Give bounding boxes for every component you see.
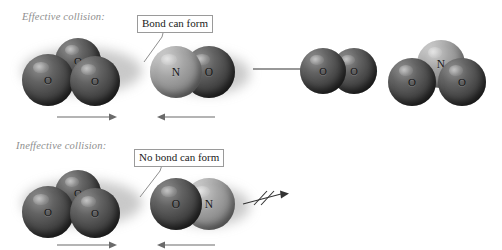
atom-label-o: O <box>44 206 52 218</box>
row-heading-ineffective: Ineffective collision: <box>16 140 106 151</box>
atom-oxygen-lower-left: O <box>22 54 74 106</box>
molecule-no-top: N O <box>150 44 246 104</box>
atom-label-o: O <box>408 76 416 88</box>
atom-label-o: O <box>319 66 327 77</box>
motion-arrow-on-bottom <box>157 240 215 250</box>
callout-bond-can-form: Bond can form <box>137 15 213 33</box>
molecule-no2-product: N O O <box>388 40 498 110</box>
atom-oxygen-lower-left: O <box>388 58 436 106</box>
atom-label-o: O <box>172 198 180 210</box>
molecule-ozone-bottom: O O O <box>22 170 146 242</box>
motion-arrow-no-top <box>157 112 215 122</box>
molecule-on-bottom: O N <box>150 176 246 236</box>
figure-canvas: Effective collision: O O O Bond can form… <box>0 0 502 250</box>
atom-oxygen-lower-right: O <box>438 58 486 106</box>
atom-label-o: O <box>350 66 358 77</box>
atom-label-n: N <box>172 66 180 78</box>
atom-label-o: O <box>44 74 52 86</box>
atom-label-n: N <box>205 198 213 210</box>
atom-oxygen-lower-right: O <box>70 188 120 238</box>
reaction-arrow-blocked <box>243 188 289 210</box>
atom-oxygen-left: O <box>150 178 202 230</box>
callout-no-bond-can-form: No bond can form <box>134 149 224 167</box>
motion-arrow-ozone-bottom <box>57 240 117 250</box>
molecule-ozone-top: O O O <box>22 38 146 110</box>
atom-label-o: O <box>458 76 466 88</box>
row-heading-effective: Effective collision: <box>22 11 105 22</box>
motion-arrow-ozone-top <box>57 112 117 122</box>
atom-oxygen-lower-left: O <box>22 186 74 238</box>
atom-oxygen-left: O <box>300 48 346 94</box>
atom-nitrogen-left: N <box>150 46 202 98</box>
molecule-o2-product: O O <box>300 48 384 102</box>
atom-label-o: O <box>91 75 99 87</box>
atom-label-o: O <box>91 207 99 219</box>
atom-oxygen-lower-right: O <box>70 56 120 106</box>
atom-label-o: O <box>205 66 213 78</box>
